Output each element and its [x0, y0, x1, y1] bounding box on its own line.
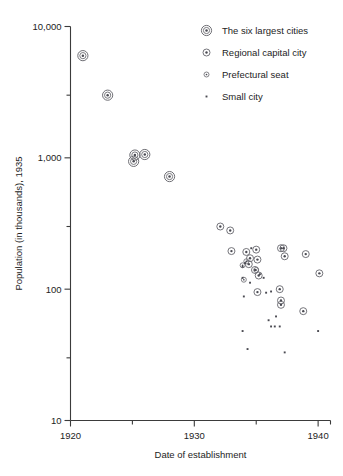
legend-label: Prefectural seat — [222, 69, 289, 80]
data-point — [265, 292, 267, 294]
data-point — [247, 348, 249, 350]
y-tick-label: 1,000 — [38, 152, 62, 163]
y-tick-label: 100 — [46, 284, 62, 295]
data-point — [268, 319, 270, 321]
plot-background — [0, 0, 343, 476]
x-tick-label: 1920 — [60, 430, 81, 441]
x-axis-title: Date of establishment — [155, 449, 247, 460]
data-point — [263, 277, 265, 279]
y-tick-label: 10,000 — [32, 21, 61, 32]
data-point — [242, 266, 244, 268]
legend-label: Small city — [222, 91, 263, 102]
y-axis-title: Population (in thousands), 1935 — [13, 156, 24, 290]
data-point — [244, 262, 246, 264]
data-point — [249, 282, 251, 284]
data-point — [284, 351, 286, 353]
legend-label: Regional capital city — [222, 47, 307, 58]
data-point — [270, 326, 272, 328]
data-point — [317, 330, 319, 332]
data-point — [274, 326, 276, 328]
x-tick-label: 1940 — [308, 430, 329, 441]
data-point — [243, 296, 245, 298]
data-point — [250, 247, 252, 249]
data-point — [242, 330, 244, 332]
scatter-plot-svg: 101001,00010,000192019301940 The six lar… — [0, 0, 343, 476]
legend-label: The six largest cities — [222, 25, 308, 36]
x-tick-label: 1930 — [184, 430, 205, 441]
data-point — [279, 326, 281, 328]
chart-figure: 101001,00010,000192019301940 The six lar… — [0, 0, 343, 476]
data-point — [242, 277, 244, 279]
data-point — [259, 273, 261, 275]
legend-marker-dot — [206, 96, 208, 98]
y-tick-label: 10 — [51, 415, 62, 426]
data-point — [275, 315, 277, 317]
data-point — [270, 291, 272, 293]
